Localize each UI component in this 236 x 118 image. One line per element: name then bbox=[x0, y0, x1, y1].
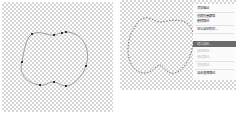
left-canvas-path-view[interactable] bbox=[2, 2, 113, 112]
anchor-points bbox=[21, 31, 87, 87]
menu-item-clipping-path[interactable]: 剪贴路径... bbox=[193, 63, 236, 68]
anchor-point[interactable] bbox=[65, 85, 67, 87]
context-menu: 添加锚点 创建矢量蒙版 删除路径 定义自定形状... 建立选区... 填充路径.… bbox=[193, 4, 236, 80]
anchor-point[interactable] bbox=[31, 33, 33, 35]
anchor-point[interactable] bbox=[65, 31, 67, 33]
path-outline[interactable] bbox=[2, 2, 113, 112]
anchor-point[interactable] bbox=[39, 84, 41, 86]
anchor-point[interactable] bbox=[53, 81, 55, 83]
menu-item-delete-path[interactable]: 删除路径 bbox=[193, 19, 236, 24]
anchor-point[interactable] bbox=[85, 65, 87, 67]
anchor-point[interactable] bbox=[21, 61, 23, 63]
menu-separator bbox=[195, 61, 234, 62]
menu-item-make-selection[interactable]: 建立选区... bbox=[193, 41, 236, 47]
menu-item-stroke-path[interactable]: 描边路径... bbox=[193, 55, 236, 60]
anchor-point[interactable] bbox=[53, 34, 55, 36]
menu-separator bbox=[195, 69, 234, 70]
menu-item-free-transform-path[interactable]: 自由变换路径 bbox=[193, 71, 236, 76]
menu-separator bbox=[195, 33, 234, 34]
menu-item-add-anchor[interactable]: 添加锚点 bbox=[193, 6, 236, 11]
anchor-point[interactable] bbox=[61, 32, 63, 34]
menu-separator bbox=[195, 25, 234, 26]
menu-item-fill-path[interactable]: 填充路径... bbox=[193, 49, 236, 54]
menu-item-define-custom-shape[interactable]: 定义自定形状... bbox=[193, 27, 236, 32]
menu-separator bbox=[195, 12, 234, 13]
